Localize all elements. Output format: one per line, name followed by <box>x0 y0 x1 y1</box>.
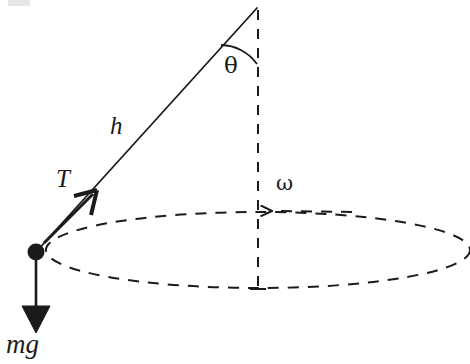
weight-label: mg <box>6 331 39 358</box>
omega-direction-arrow <box>272 211 352 212</box>
theta-angle-label: θ <box>224 54 238 77</box>
omega-angular-velocity-label: ω <box>276 173 293 194</box>
height-label: h <box>110 113 123 138</box>
conical-pendulum-figure: h T mg θ ω <box>0 0 470 364</box>
tension-label: T <box>56 166 70 191</box>
pendulum-bob <box>28 244 45 261</box>
tension-vector-shaft <box>44 194 93 243</box>
